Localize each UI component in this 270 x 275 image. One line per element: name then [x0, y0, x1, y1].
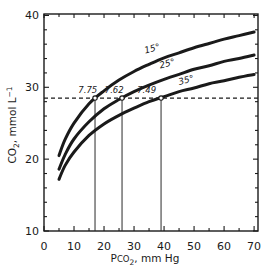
y-tick-label: 30	[25, 81, 39, 94]
intersection-marker	[159, 96, 163, 100]
ph-label: 7.62	[105, 85, 124, 95]
co2-pco2-chart-canvas: 0102030405060701020304015°25°35°7.757.62…	[0, 0, 270, 275]
y-title-subscript: 2	[12, 143, 21, 148]
y-tick-label: 40	[25, 9, 39, 22]
ph-label: 7.49	[137, 85, 156, 95]
y-tick-label: 20	[25, 153, 39, 166]
y-title-main: CO	[6, 148, 18, 164]
x-axis-title: PCO2, mm Hg	[38, 252, 252, 267]
y-axis-title: CO2, mmol L−1	[5, 86, 22, 163]
x-title-suffix: , mm Hg	[134, 252, 179, 264]
intersection-marker	[93, 96, 97, 100]
y-tick-label: 10	[25, 225, 39, 238]
y-title-units: , mmol L	[6, 98, 18, 144]
co2-dissociation-figure: 0102030405060701020304015°25°35°7.757.62…	[0, 0, 270, 275]
x-title-smallcaps: CO	[117, 254, 130, 264]
ph-label: 7.75	[78, 85, 97, 95]
y-title-superscript: −1	[5, 86, 14, 97]
intersection-marker	[120, 96, 124, 100]
